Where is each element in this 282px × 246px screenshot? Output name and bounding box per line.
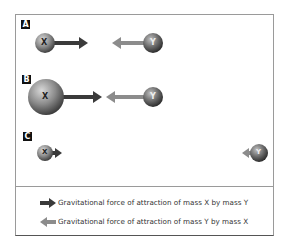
mass-y-label-a: Y (150, 38, 156, 47)
legend-dark-arrow-right-icon (40, 198, 56, 208)
dark-arrow-right-icon (52, 148, 62, 158)
gravitation-diagram (0, 0, 282, 246)
dark-arrow-right-icon (52, 37, 88, 49)
legend-item-x-by-y: Gravitational force of attraction of mas… (58, 198, 248, 207)
dark-arrow-right-icon (62, 91, 102, 103)
light-arrow-left-icon (106, 91, 146, 103)
mass-x-label-b: X (42, 92, 48, 101)
mass-y-label-b: Y (150, 92, 156, 101)
mass-x-label-c: X (42, 148, 47, 156)
mass-x-label-a: X (41, 38, 47, 47)
legend-light-arrow-left-icon (40, 217, 56, 227)
panel-a (35, 33, 163, 53)
legend-item-y-by-x: Gravitational force of attraction of mas… (58, 217, 248, 226)
panel-b (28, 79, 163, 115)
panel-c (37, 144, 268, 162)
light-arrow-left-icon (112, 37, 146, 49)
mass-y-label-c: Y (256, 148, 261, 156)
